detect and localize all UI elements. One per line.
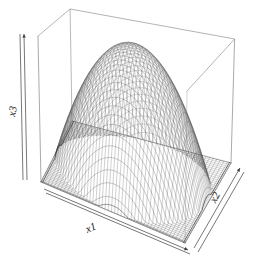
persp-plot-figure: x1 x2 x3 (0, 0, 254, 264)
persp-plot-canvas: x1 x2 x3 (0, 0, 254, 264)
